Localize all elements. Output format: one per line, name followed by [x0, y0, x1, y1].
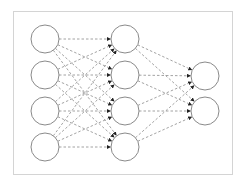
edge-hidden1-to-output1: [138, 81, 192, 105]
edge-hidden3-to-output1: [138, 117, 192, 141]
input-node-4: [31, 133, 59, 161]
input-node-3: [31, 97, 59, 125]
edge-hidden3-to-output0: [135, 86, 194, 138]
hidden-node-3: [111, 97, 139, 125]
neural-network-diagram: [0, 0, 244, 184]
hidden-node-2: [111, 61, 139, 89]
input-node-2: [31, 61, 59, 89]
output-node-2: [191, 97, 219, 125]
output-node-1: [191, 62, 219, 90]
hidden-node-1: [111, 25, 139, 53]
edge-hidden2-to-output0: [138, 82, 192, 106]
edge-hidden0-to-output1: [135, 48, 194, 101]
connections-group: [53, 39, 194, 147]
edge-hidden1-to-output0: [139, 75, 191, 76]
input-node-1: [31, 25, 59, 53]
hidden-node-4: [111, 133, 139, 161]
